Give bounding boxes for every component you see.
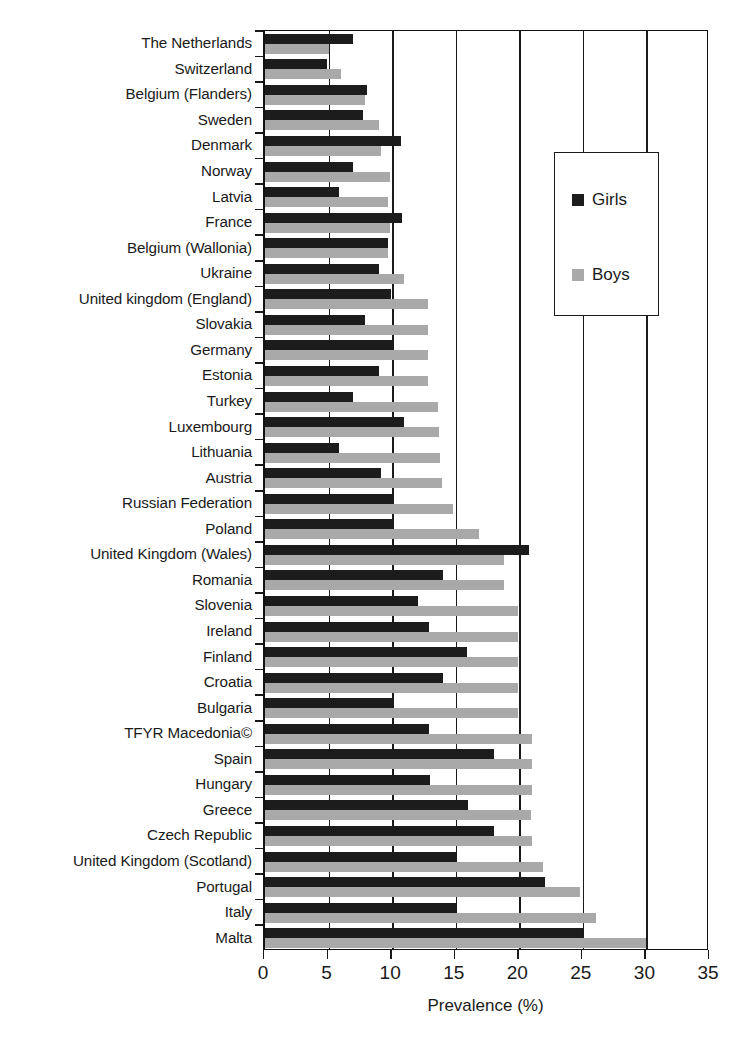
bar-boys <box>265 325 428 335</box>
category-label: Russian Federation <box>0 495 252 510</box>
category-tick <box>255 618 263 620</box>
x-tick-35 <box>708 950 709 959</box>
category-label: Luxembourg <box>0 419 252 434</box>
x-tick-label-25: 25 <box>561 962 601 984</box>
category-label: Ireland <box>0 623 252 638</box>
bar-boys <box>265 683 518 693</box>
bar-girls <box>265 392 353 402</box>
bar-group <box>265 673 707 693</box>
x-tick-label-30: 30 <box>624 962 664 984</box>
category-tick <box>255 899 263 901</box>
x-tick-label-15: 15 <box>434 962 474 984</box>
bar-boys <box>265 606 518 616</box>
category-label: Norway <box>0 163 252 178</box>
bar-boys <box>265 759 532 769</box>
bar-group <box>265 443 707 463</box>
category-tick <box>255 669 263 671</box>
category-tick <box>255 56 263 58</box>
bar-boys <box>265 69 341 79</box>
category-label: Germany <box>0 342 252 357</box>
category-tick <box>255 234 263 236</box>
category-label: United kingdom (England) <box>0 291 252 306</box>
bar-girls <box>265 877 545 887</box>
category-tick <box>255 746 263 748</box>
chart-page: The NetherlandsSwitzerlandBelgium (Fland… <box>0 0 737 1040</box>
bar-girls <box>265 340 392 350</box>
bar-girls <box>265 417 404 427</box>
bar-girls <box>265 570 443 580</box>
legend-item-boys: Boys <box>572 266 630 283</box>
category-label: Turkey <box>0 393 252 408</box>
category-tick <box>255 567 263 569</box>
category-tick <box>255 388 263 390</box>
bar-group <box>265 315 707 335</box>
category-label: Denmark <box>0 137 252 152</box>
category-label: Latvia <box>0 189 252 204</box>
chart-legend: Girls Boys <box>554 152 659 316</box>
x-tick-label-10: 10 <box>370 962 410 984</box>
bar-boys <box>265 299 428 309</box>
category-tick <box>255 848 263 850</box>
bar-girls <box>265 85 367 95</box>
bar-boys <box>265 708 518 718</box>
bar-group <box>265 749 707 769</box>
x-tick-30 <box>644 950 645 959</box>
category-label: Finland <box>0 649 252 664</box>
x-tick-5 <box>327 950 328 959</box>
bar-boys <box>265 862 543 872</box>
bar-boys <box>265 120 379 130</box>
category-axis-labels: The NetherlandsSwitzerlandBelgium (Fland… <box>0 30 258 950</box>
category-tick <box>255 541 263 543</box>
bar-boys <box>265 529 479 539</box>
category-tick <box>255 720 263 722</box>
bar-girls <box>265 238 388 248</box>
legend-label-boys: Boys <box>592 266 630 283</box>
x-tick-20 <box>517 950 518 959</box>
bar-group <box>265 622 707 642</box>
category-tick <box>255 797 263 799</box>
bar-boys <box>265 350 428 360</box>
category-tick <box>255 337 263 339</box>
bar-girls <box>265 852 456 862</box>
bar-boys <box>265 478 442 488</box>
bar-boys <box>265 734 532 744</box>
category-label: Poland <box>0 521 252 536</box>
bar-group <box>265 85 707 105</box>
category-label: Estonia <box>0 367 252 382</box>
category-label: Malta <box>0 930 252 945</box>
bar-group <box>265 340 707 360</box>
bar-boys <box>265 810 531 820</box>
bar-boys <box>265 887 580 897</box>
bar-boys <box>265 785 532 795</box>
bar-boys <box>265 580 504 590</box>
category-tick <box>255 516 263 518</box>
category-tick <box>255 924 263 926</box>
bar-group <box>265 110 707 130</box>
bar-boys <box>265 274 404 284</box>
bar-girls <box>265 800 468 810</box>
bar-girls <box>265 110 363 120</box>
x-axis-title: Prevalence (%) <box>263 996 708 1016</box>
legend-label-girls: Girls <box>592 191 627 208</box>
bar-girls <box>265 366 379 376</box>
x-tick-label-0: 0 <box>243 962 283 984</box>
category-tick <box>255 771 263 773</box>
bar-group <box>265 494 707 514</box>
category-tick <box>255 413 263 415</box>
bar-boys <box>265 223 390 233</box>
bar-girls <box>265 775 430 785</box>
bar-girls <box>265 34 353 44</box>
category-tick <box>255 286 263 288</box>
x-tick-15 <box>454 950 455 959</box>
bar-girls <box>265 59 327 69</box>
bar-girls <box>265 315 365 325</box>
category-tick <box>255 183 263 185</box>
bar-group <box>265 903 707 923</box>
bar-girls <box>265 264 379 274</box>
category-label: Hungary <box>0 776 252 791</box>
bar-group <box>265 775 707 795</box>
bar-group <box>265 417 707 437</box>
category-label: Sweden <box>0 112 252 127</box>
bar-group <box>265 800 707 820</box>
category-tick <box>255 873 263 875</box>
